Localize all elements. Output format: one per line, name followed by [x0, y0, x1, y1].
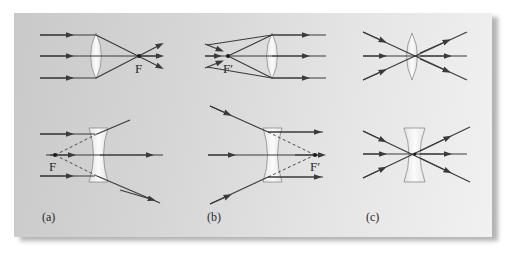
panel-c-top-convex [363, 32, 467, 80]
focal-point [313, 153, 317, 157]
focal-label-b-bottom: F′ [310, 159, 320, 174]
panel-label-a: (a) [42, 210, 55, 224]
lens-ray-diagram: F F F′ F′ (a) (b) (c) [0, 0, 508, 254]
panel-c-bottom-concave [363, 127, 470, 182]
focal-label-b-top: F′ [223, 61, 233, 76]
lens-center-point [414, 153, 417, 156]
focal-label-a-top: F [135, 61, 142, 76]
focal-point [137, 54, 141, 58]
focal-point [53, 153, 57, 157]
panel-label-c: (c) [366, 210, 379, 224]
focal-point [226, 54, 230, 58]
panel-label-b: (b) [207, 210, 221, 224]
focal-label-a-bottom: F [49, 159, 56, 174]
panel-a-bottom-concave [40, 120, 163, 203]
panel-b-bottom-concave [208, 106, 323, 204]
